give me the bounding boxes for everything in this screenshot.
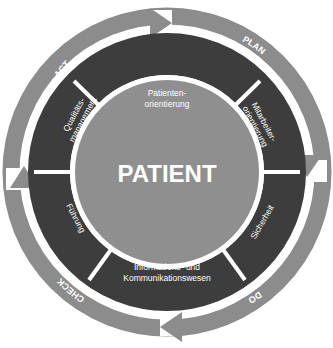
svg-text:Informations- und: Informations- und <box>134 262 200 272</box>
svg-text:Kommunikationswesen: Kommunikationswesen <box>123 273 211 283</box>
svg-text:orientierung: orientierung <box>145 99 190 109</box>
segment-patientenorientierung: Patienten- orientierung <box>145 88 190 109</box>
center-label: PATIENT <box>117 160 216 187</box>
svg-text:Patienten-: Patienten- <box>148 88 187 98</box>
pdca-patient-diagram: PLAN ACT DO CHECK PATIENT Patienten- ori… <box>0 0 333 348</box>
segment-informations-und-kommunikationswesen: Informations- und Kommunikationswesen <box>123 262 211 283</box>
